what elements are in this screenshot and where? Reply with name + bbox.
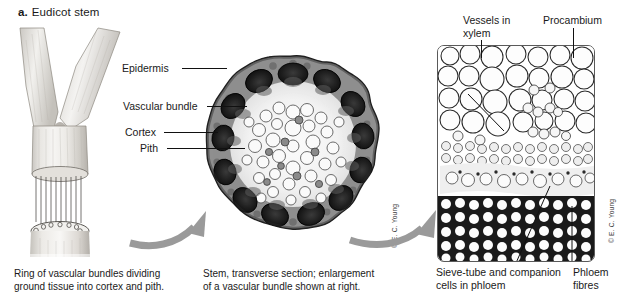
label-vascular-bundle: Vascular bundle (123, 100, 198, 113)
photo-credit-bundle: © E. C. Young (608, 199, 615, 243)
leader-line-vascular-bundle (207, 106, 247, 107)
label-vessels-in-xylem: Vessels in xylem (463, 14, 510, 39)
label-vessels-in-xylem-line1: Vessels in (463, 14, 510, 27)
leader-line-cortex (164, 132, 218, 133)
curved-arrow-stem-to-section (128, 203, 224, 253)
caption-stem-drawing: Ring of vascular bundles dividing ground… (14, 268, 204, 293)
label-epidermis: Epidermis (122, 62, 169, 75)
figure-title-text: Eudicot stem (32, 6, 100, 18)
label-sieve-tube-line1: Sieve-tube and companion (436, 266, 561, 279)
label-pith: Pith (140, 142, 158, 155)
label-procambium: Procambium (543, 14, 602, 27)
label-sieve-tube-companion-cells: Sieve-tube and companion cells in phloem (436, 266, 561, 291)
caption-stem-line2: ground tissue into cortex and pith. (14, 281, 204, 294)
label-phloem-fibres: Phloem fibres (573, 266, 609, 291)
label-phloem-fibres-line2: fibres (573, 279, 609, 292)
leader-line-procambium (573, 28, 574, 58)
leader-line-epidermis (182, 68, 227, 69)
label-phloem-fibres-line1: Phloem (573, 266, 609, 279)
figure-eudicot-stem: a.Eudicot stem (0, 0, 632, 304)
label-cortex: Cortex (125, 126, 156, 139)
caption-cross-section-line1: Stem, transverse section; enlargement (203, 268, 403, 281)
caption-cross-section-line2: of a vascular bundle shown at right. (203, 281, 403, 294)
label-vessels-in-xylem-line2: xylem (463, 27, 510, 40)
curved-arrow-section-to-bundle (348, 198, 444, 250)
figure-label: a. (18, 6, 28, 18)
vascular-bundle-micrograph (437, 45, 595, 262)
caption-cross-section: Stem, transverse section; enlargement of… (203, 268, 403, 293)
leader-line-pith (167, 148, 245, 149)
page-title: a.Eudicot stem (18, 6, 99, 18)
stem-drawing-illustration (14, 26, 132, 258)
caption-stem-line1: Ring of vascular bundles dividing (14, 268, 204, 281)
label-sieve-tube-line2: cells in phloem (436, 279, 561, 292)
leader-line-vessels-in-xylem (481, 40, 482, 58)
